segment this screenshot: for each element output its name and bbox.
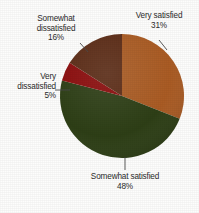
pie-shading-overlay [60,34,184,158]
slice-label-very-dissatisfied-text-line1: Very [40,72,56,81]
slice-label-very-dissatisfied: Very dissatisfied 5% [2,72,56,101]
pie-chart-figure: Very satisfied 31% Somewhat dissatisfied… [0,0,199,213]
slice-label-somewhat-dissatisfied-text-line2: dissatisfied [37,24,76,33]
slice-label-somewhat-dissatisfied-text-line1: Somewhat [37,14,74,23]
slice-label-very-dissatisfied-value: 5% [2,91,56,101]
slice-label-somewhat-satisfied-value: 48% [66,182,184,192]
slice-label-somewhat-dissatisfied: Somewhat dissatisfied 16% [20,14,92,43]
slice-label-very-satisfied-text: Very satisfied [136,11,183,20]
slice-label-very-satisfied-value: 31% [126,21,192,31]
slice-label-somewhat-dissatisfied-value: 16% [20,33,92,43]
slice-label-somewhat-satisfied-text: Somewhat satisfied [91,172,159,181]
slice-label-very-satisfied: Very satisfied 31% [126,11,192,30]
slice-label-somewhat-satisfied: Somewhat satisfied 48% [66,172,184,191]
slice-label-very-dissatisfied-text-line2: dissatisfied [17,82,56,91]
